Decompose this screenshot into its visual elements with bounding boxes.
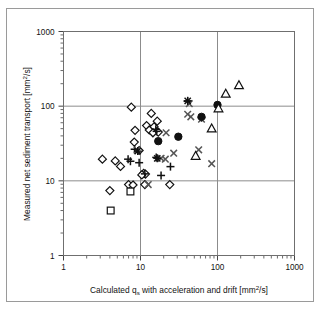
marker-open-triangle xyxy=(221,89,230,97)
marker-open-diamond xyxy=(147,109,155,117)
data-points xyxy=(98,81,243,214)
gridlines xyxy=(64,32,295,256)
marker-open-diamond xyxy=(166,181,174,189)
marker-open-diamond xyxy=(131,126,139,134)
series-plus xyxy=(124,97,205,179)
x-axis-title: Calculated qs with acceleration and drif… xyxy=(90,284,268,296)
y-tick-label: 100 xyxy=(41,102,55,111)
marker-open-diamond xyxy=(127,103,135,111)
axis-ticks xyxy=(59,32,295,261)
marker-filled-circle xyxy=(175,133,182,140)
y-tick-label: 1 xyxy=(50,252,55,261)
marker-open-diamond xyxy=(106,187,114,195)
marker-open-square xyxy=(107,207,114,214)
x-tick-label: 10 xyxy=(136,263,146,272)
y-tick-labels: 1101001000 xyxy=(36,28,55,261)
marker-open-triangle xyxy=(191,151,200,159)
scatter-plot: 1101001000 1101001000 Calculated qs with… xyxy=(0,0,321,315)
chart-figure: 1101001000 1101001000 Calculated qs with… xyxy=(0,0,321,315)
x-tick-labels: 1101001000 xyxy=(61,263,304,272)
marker-open-diamond xyxy=(117,162,125,170)
plot-frame xyxy=(64,32,295,256)
x-tick-label: 1000 xyxy=(285,263,304,272)
y-tick-label: 1000 xyxy=(36,28,55,37)
marker-filled-circle xyxy=(198,113,205,120)
marker-open-square xyxy=(127,188,134,195)
marker-open-diamond xyxy=(130,138,138,146)
marker-open-diamond xyxy=(98,155,106,163)
marker-open-triangle xyxy=(207,124,216,132)
y-tick-label: 10 xyxy=(45,177,55,186)
marker-filled-circle xyxy=(155,137,162,144)
x-tick-label: 1 xyxy=(61,263,66,272)
series-filled-circle xyxy=(155,101,222,145)
marker-open-diamond xyxy=(111,157,119,165)
y-axis-title: Measured net sediment transport [mm2/s] xyxy=(21,67,32,221)
x-tick-label: 100 xyxy=(211,263,225,272)
marker-open-triangle xyxy=(235,81,244,89)
